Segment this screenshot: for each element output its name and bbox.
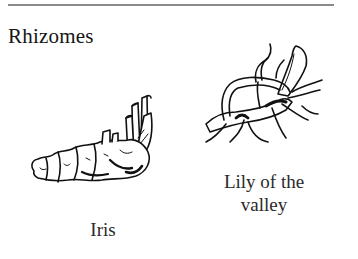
lily-label-line1: Lily of the bbox=[206, 170, 322, 193]
lily-of-the-valley-label: Lily of the valley bbox=[206, 170, 322, 216]
page-title: Rhizomes bbox=[8, 24, 94, 49]
lily-label-line2: valley bbox=[206, 193, 322, 216]
iris-rhizome-icon bbox=[20, 88, 160, 198]
top-divider bbox=[8, 4, 334, 6]
iris-label: Iris bbox=[78, 218, 128, 241]
lily-of-the-valley-rhizome-icon bbox=[196, 42, 336, 162]
